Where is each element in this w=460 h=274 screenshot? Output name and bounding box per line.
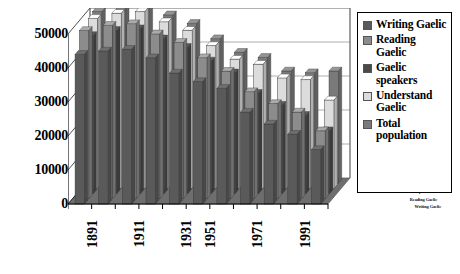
bar-side-face (183, 39, 186, 199)
bar-side-face (188, 44, 191, 194)
x-axis-tick-label: 1991 (298, 220, 314, 248)
bar-front-face (264, 124, 273, 204)
bar-side-face (259, 90, 262, 194)
legend-swatch-icon (363, 92, 372, 101)
z-axis-series-label: Reading Gaelic (410, 197, 437, 202)
legend-item-label: Gaelic speakers (376, 61, 447, 86)
chart-legend: Writing GaelicReading GaelicGaelic speak… (357, 12, 452, 193)
bar-side-face (85, 51, 88, 204)
legend-item-label: Reading Gaelic (376, 33, 447, 58)
bar-side-face (321, 146, 324, 204)
bar-side-face (160, 30, 163, 199)
y-axis-tick-label: 0 (61, 196, 68, 212)
y-axis-tick-label: 50000 (34, 26, 68, 42)
bar-column (75, 51, 88, 204)
bar-front-face (75, 54, 84, 204)
legend-item-label: Writing Gaelic (376, 18, 446, 30)
x-axis-labels: 189119111931195119711991 (68, 218, 368, 274)
bar-side-face (164, 35, 167, 194)
bar-front-face (122, 49, 131, 204)
legend-swatch-icon (363, 21, 372, 30)
bar-side-face (141, 25, 144, 194)
bar-side-face (282, 101, 285, 193)
legend-item[interactable]: Total population (363, 117, 447, 142)
bar-side-face (93, 32, 96, 194)
bar-front-face (241, 112, 250, 204)
bar-column (99, 47, 112, 204)
bar-column (241, 108, 254, 204)
bar-side-face (278, 100, 281, 199)
bar-side-face (155, 54, 158, 204)
bar-front-face (311, 150, 320, 204)
z-axis-series-label: Writing Gaelic (415, 204, 441, 209)
legend-swatch-icon (363, 64, 372, 73)
x-axis-tick-label: 1911 (132, 220, 148, 247)
bar-side-face (136, 20, 139, 199)
bar-side-face (274, 120, 277, 204)
bar-side-face (325, 127, 328, 199)
y-axis-tick-label: 40000 (34, 60, 68, 76)
bar-side-face (203, 78, 206, 204)
bar-side-face (297, 131, 300, 205)
bar-column (193, 78, 206, 204)
legend-swatch-icon (363, 120, 372, 129)
bar-side-face (179, 69, 182, 204)
bar-side-face (132, 46, 135, 205)
y-axis-labels: 01000020000300004000050000 (0, 0, 72, 274)
bar-side-face (117, 27, 120, 194)
bar-front-face (288, 134, 297, 204)
x-axis-tick-label: 1951 (203, 220, 219, 248)
bar-side-face (212, 57, 215, 193)
bar-side-face (108, 47, 111, 204)
bar-side-face (231, 68, 234, 199)
bar-front-face (170, 73, 179, 204)
bar-front-face (146, 58, 155, 204)
legend-item[interactable]: Writing Gaelic (363, 18, 447, 30)
y-axis-tick-label: 10000 (34, 162, 68, 178)
bar-side-face (250, 108, 253, 204)
plot-area (68, 8, 356, 220)
legend-item-label: Total population (376, 117, 447, 142)
bar-front-face (99, 51, 108, 204)
legend-swatch-icon (363, 36, 372, 45)
x-axis-tick-label: 1931 (179, 220, 195, 248)
y-axis-tick-label: 30000 (34, 94, 68, 110)
bar-column (311, 146, 324, 204)
bar-side-face (226, 85, 229, 204)
y-axis-tick-label: 20000 (34, 128, 68, 144)
x-axis-tick-label: 1971 (250, 220, 266, 248)
bar-side-face (207, 54, 210, 199)
gaelic-census-bar-chart: 01000020000300004000050000 1891191119311… (0, 0, 460, 274)
bar-front-face (217, 88, 226, 204)
bar-side-face (254, 88, 257, 199)
bar-column (146, 54, 159, 204)
legend-item-label: Understand Gaelic (376, 89, 447, 114)
bar-front-face (193, 82, 202, 204)
legend-item[interactable]: Understand Gaelic (363, 89, 447, 114)
bar-column (122, 46, 135, 205)
bar-column (288, 131, 301, 205)
bar-side-face (89, 27, 92, 199)
bar-column (264, 120, 277, 204)
bar-side-face (306, 112, 309, 194)
bar-column (170, 69, 183, 204)
x-axis-tick-label: 1891 (85, 220, 101, 248)
bar-column (217, 85, 230, 204)
legend-item[interactable]: Gaelic speakers (363, 61, 447, 86)
plot-svg (68, 8, 356, 220)
bar-side-face (302, 108, 305, 199)
bar-side-face (339, 67, 342, 183)
legend-item[interactable]: Reading Gaelic (363, 33, 447, 58)
bar-side-face (113, 22, 116, 199)
bar-side-face (235, 69, 238, 194)
